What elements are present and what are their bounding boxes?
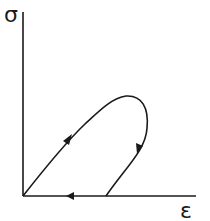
- y-axis-label: σ: [4, 4, 18, 26]
- arrow-left-icon: [66, 192, 74, 200]
- hysteresis-diagram: [0, 0, 210, 221]
- x-axis-label: ε: [180, 200, 192, 221]
- hysteresis-loop-curve: [23, 96, 147, 196]
